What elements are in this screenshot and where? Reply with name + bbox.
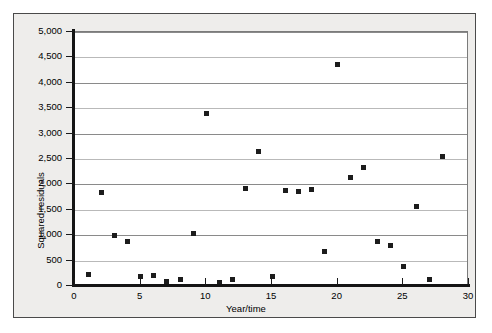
y-axis-tick-label: 5,000 <box>0 26 62 36</box>
data-point <box>440 154 445 159</box>
y-axis-tick-label: 4,500 <box>0 51 62 61</box>
data-point <box>283 188 288 193</box>
data-point <box>204 111 209 116</box>
y-axis-tick-label: 4,000 <box>0 77 62 87</box>
gridline <box>75 184 467 185</box>
data-point <box>322 249 327 254</box>
x-axis-tick <box>468 278 469 285</box>
x-axis-tick-label: 30 <box>453 290 483 301</box>
data-point <box>388 243 393 248</box>
data-point <box>151 273 156 278</box>
data-point <box>256 149 261 154</box>
data-point <box>125 239 130 244</box>
gridline <box>75 134 467 135</box>
y-axis-tick <box>66 209 74 210</box>
y-axis-tick-label: 1,500 <box>0 204 62 214</box>
data-point <box>191 231 196 236</box>
data-point <box>401 264 406 269</box>
y-axis-tick <box>66 82 74 83</box>
y-axis-tick-label: 1,000 <box>0 229 62 239</box>
data-point <box>414 204 419 209</box>
data-point <box>335 62 340 67</box>
x-axis-tick <box>337 278 338 285</box>
y-axis-tick <box>66 56 74 57</box>
data-point <box>112 233 117 238</box>
gridline <box>75 210 467 211</box>
gridline <box>75 57 467 58</box>
x-axis-tick <box>140 278 141 285</box>
y-axis-tick-label: 500 <box>0 255 62 265</box>
data-point <box>178 277 183 282</box>
x-axis-title: Year/time <box>0 303 492 314</box>
gridline <box>75 159 467 160</box>
data-point <box>427 277 432 282</box>
y-axis-tick <box>66 285 74 286</box>
y-axis-tick <box>66 31 74 32</box>
y-axis-tick-label: 3,000 <box>0 128 62 138</box>
y-axis-tick <box>66 234 74 235</box>
data-point <box>230 277 235 282</box>
y-axis-tick <box>66 133 74 134</box>
data-point <box>375 239 380 244</box>
gridline <box>75 83 467 84</box>
y-axis-tick-label: 2,500 <box>0 153 62 163</box>
x-axis-tick-label: 10 <box>190 290 220 301</box>
data-point <box>348 175 353 180</box>
data-point <box>361 165 366 170</box>
data-point <box>243 186 248 191</box>
data-point <box>309 187 314 192</box>
gridline <box>75 261 467 262</box>
x-axis-tick <box>402 278 403 285</box>
gridline <box>75 108 467 109</box>
y-axis-tick-label: 0 <box>0 280 62 290</box>
y-axis-tick <box>66 260 74 261</box>
y-axis-tick-label: 3,500 <box>0 102 62 112</box>
y-axis-tick <box>66 183 74 184</box>
data-point <box>86 272 91 277</box>
x-axis-tick <box>271 278 272 285</box>
y-axis-tick-label: 2,000 <box>0 178 62 188</box>
x-axis-tick <box>74 278 75 285</box>
plot-area <box>74 31 468 285</box>
y-axis-tick <box>66 107 74 108</box>
data-point <box>99 190 104 195</box>
x-axis-tick-label: 5 <box>125 290 155 301</box>
gridline <box>75 235 467 236</box>
x-axis-tick-label: 0 <box>59 290 89 301</box>
x-axis-tick-label: 25 <box>387 290 417 301</box>
data-point <box>296 189 301 194</box>
y-axis-tick <box>66 158 74 159</box>
gridline <box>75 32 467 33</box>
x-axis-tick-label: 20 <box>322 290 352 301</box>
x-axis-tick-label: 15 <box>256 290 286 301</box>
chart-figure: Squared residuals 05001,0001,5002,0002,5… <box>0 0 492 333</box>
x-axis-tick <box>205 278 206 285</box>
